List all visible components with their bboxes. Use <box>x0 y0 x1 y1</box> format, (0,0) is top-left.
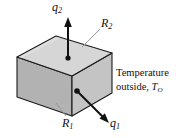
r2-leader-line <box>82 29 100 47</box>
label-r2-subscript: 2 <box>108 22 112 31</box>
q2-arrow-base-dot <box>65 55 70 60</box>
label-q2-subscript: 2 <box>58 6 62 15</box>
label-q1: q1 <box>110 117 120 131</box>
label-r2: R2 <box>101 17 112 31</box>
q1-arrow-base-dot <box>74 88 80 94</box>
temperature-line-2-prefix: outside, <box>116 81 152 92</box>
label-q1-subscript: 1 <box>116 122 120 131</box>
temperature-line-1: Temperature <box>116 66 169 80</box>
q2-arrow-head <box>64 17 72 27</box>
temperature-line-2: outside, TO <box>116 80 169 95</box>
temperature-subscript: O <box>157 86 162 94</box>
thermal-slab-figure: q2 R2 R1 q1 Temperature outside, TO <box>0 0 176 138</box>
label-r1: R1 <box>62 117 73 131</box>
label-q2: q2 <box>52 1 62 15</box>
label-r1-subscript: 1 <box>69 122 73 131</box>
label-temperature-outside: Temperature outside, TO <box>116 66 169 95</box>
